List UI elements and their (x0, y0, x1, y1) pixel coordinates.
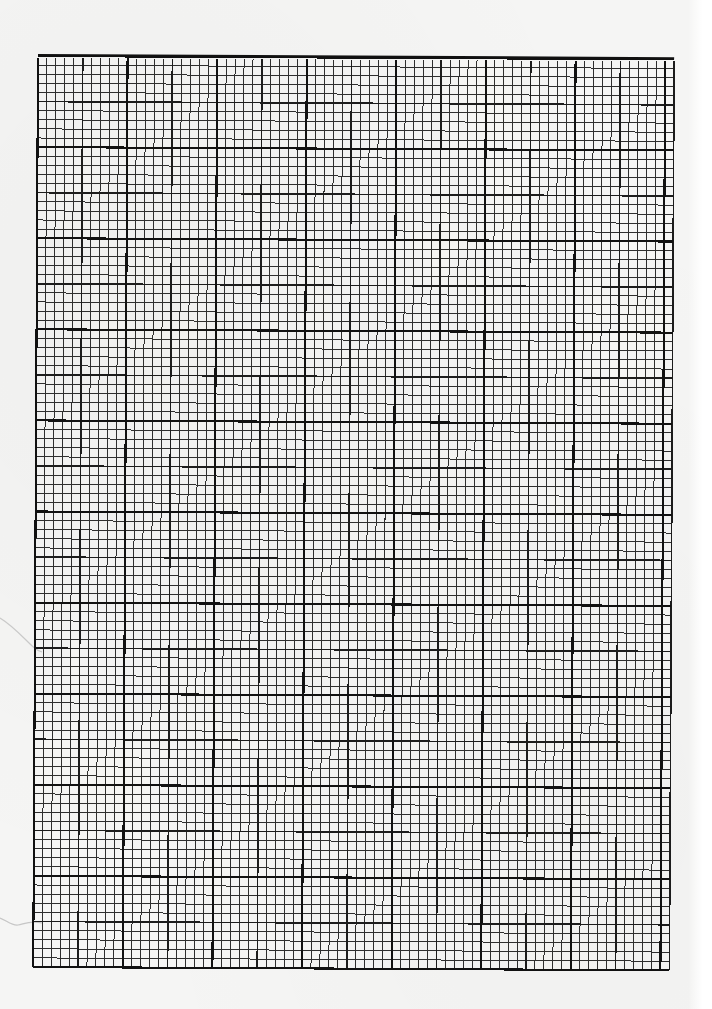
minor-grid-line (35, 621, 671, 624)
heavy-grid-line (38, 147, 674, 150)
minor-grid-line (36, 484, 672, 487)
minor-grid-line (34, 912, 670, 915)
minor-grid-line (35, 584, 671, 587)
minor-grid-line (37, 184, 673, 187)
minor-grid-line (36, 411, 672, 414)
minor-grid-line (37, 174, 673, 177)
minor-grid-line (36, 475, 672, 478)
heavy-grid-line (36, 511, 672, 514)
minor-grid-line (37, 275, 673, 278)
minor-grid-line (34, 903, 670, 906)
heavy-grid-line (34, 785, 670, 788)
minor-grid-line (34, 730, 670, 733)
minor-grid-line (35, 566, 671, 569)
minor-grid-line (38, 138, 674, 141)
minor-grid-line (38, 129, 674, 132)
minor-grid-line (37, 266, 673, 269)
minor-grid-line (36, 530, 672, 533)
minor-grid-line (35, 639, 671, 642)
minor-grid-line (35, 630, 671, 633)
heavy-grid-line (33, 967, 669, 970)
minor-grid-line (37, 156, 673, 159)
minor-grid-line (36, 502, 672, 505)
minor-grid-line (37, 165, 673, 168)
medium-grid-line (37, 284, 673, 287)
minor-grid-line (34, 885, 670, 888)
minor-grid-line (33, 931, 669, 934)
minor-grid-line (37, 256, 673, 259)
medium-grid-line (36, 466, 672, 469)
minor-grid-line (36, 384, 672, 387)
minor-grid-line (36, 448, 672, 451)
medium-grid-line (35, 648, 671, 651)
heavy-grid-line (34, 876, 670, 879)
minor-grid-line (36, 457, 672, 460)
minor-grid-line (36, 430, 672, 433)
minor-grid-line (35, 539, 671, 542)
minor-grid-line (34, 794, 670, 797)
minor-grid-line (35, 721, 671, 724)
minor-grid-line (35, 575, 671, 578)
minor-grid-line (37, 320, 673, 323)
minor-grid-line (37, 247, 673, 250)
minor-grid-line (35, 703, 671, 706)
minor-grid-line (38, 83, 674, 86)
minor-grid-line (36, 439, 672, 442)
graph-grid (0, 0, 712, 1009)
minor-grid-line (35, 657, 671, 660)
medium-grid-line (34, 739, 670, 742)
medium-grid-line (37, 193, 673, 196)
minor-grid-line (36, 357, 672, 360)
minor-grid-line (34, 757, 670, 760)
medium-grid-line (36, 375, 672, 378)
minor-grid-line (38, 74, 674, 77)
heavy-grid-line (35, 694, 671, 697)
minor-grid-line (38, 92, 674, 95)
minor-grid-line (34, 867, 670, 870)
grid-lines (0, 0, 712, 1009)
minor-grid-line (37, 229, 673, 232)
minor-grid-line (35, 593, 671, 596)
minor-grid-line (34, 812, 670, 815)
minor-grid-line (37, 302, 673, 305)
minor-grid-line (36, 366, 672, 369)
minor-grid-line (37, 220, 673, 223)
minor-grid-line (35, 548, 671, 551)
minor-grid-line (34, 803, 670, 806)
minor-grid-line (34, 858, 670, 861)
minor-grid-line (37, 338, 673, 341)
minor-grid-line (33, 940, 669, 943)
minor-grid-line (37, 293, 673, 296)
heavy-grid-line (37, 329, 673, 332)
medium-grid-line (33, 921, 669, 924)
minor-grid-line (35, 612, 671, 615)
minor-grid-line (34, 776, 670, 779)
minor-grid-line (34, 767, 670, 770)
minor-grid-line (37, 211, 673, 214)
minor-grid-line (36, 521, 672, 524)
heavy-grid-line (36, 420, 672, 423)
minor-grid-line (36, 393, 672, 396)
minor-grid-line (34, 748, 670, 751)
medium-grid-line (34, 830, 670, 833)
minor-grid-line (35, 675, 671, 678)
minor-grid-line (34, 894, 670, 897)
minor-grid-line (35, 712, 671, 715)
minor-grid-line (34, 839, 670, 842)
heavy-grid-line (35, 603, 671, 606)
heavy-grid-line (37, 238, 673, 241)
minor-grid-line (37, 311, 673, 314)
medium-grid-line (35, 557, 671, 560)
minor-grid-line (38, 111, 674, 114)
minor-grid-line (38, 120, 674, 123)
minor-grid-line (34, 821, 670, 824)
minor-grid-line (37, 202, 673, 205)
minor-grid-line (38, 65, 674, 68)
minor-grid-line (36, 402, 672, 405)
minor-grid-line (33, 958, 669, 961)
medium-grid-line (38, 102, 674, 105)
minor-grid-line (35, 666, 671, 669)
minor-grid-line (36, 493, 672, 496)
minor-grid-line (34, 849, 670, 852)
minor-grid-line (36, 348, 672, 351)
